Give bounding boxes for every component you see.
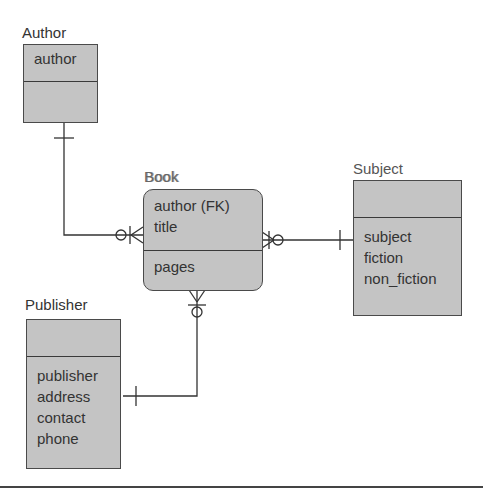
entity-title-publisher: Publisher — [25, 296, 88, 313]
attribute: contact — [37, 407, 120, 428]
book-key-section: author (FK) title — [144, 192, 262, 248]
attribute: fiction — [364, 247, 461, 268]
book-publisher-line — [123, 290, 197, 396]
author-book-line — [64, 122, 143, 235]
entity-book[interactable]: author (FK) title pages — [143, 189, 263, 291]
book-attr-section: pages — [144, 253, 262, 277]
attribute: author — [34, 48, 97, 69]
attribute: non_fiction — [364, 268, 461, 289]
publisher-attr-section: publisher address contact phone — [27, 362, 120, 449]
attribute: author (FK) — [154, 195, 262, 216]
divider — [354, 217, 461, 218]
bottom-rule — [0, 486, 483, 488]
subject-attr-section: subject fiction non_fiction — [354, 223, 461, 289]
entity-subject[interactable]: subject fiction non_fiction — [353, 180, 462, 316]
author-key-section: author — [24, 45, 97, 81]
divider — [144, 250, 262, 251]
attribute: phone — [37, 428, 120, 449]
entity-title-subject: Subject — [353, 160, 403, 177]
entity-title-author: Author — [22, 24, 66, 41]
attribute: publisher — [37, 365, 120, 386]
attribute: address — [37, 386, 120, 407]
entity-publisher[interactable]: publisher address contact phone — [26, 319, 121, 469]
divider — [24, 81, 97, 82]
divider — [27, 356, 120, 357]
entity-author[interactable]: author — [23, 44, 98, 123]
attribute: title — [154, 216, 262, 237]
attribute: subject — [364, 226, 461, 247]
attribute: pages — [154, 256, 262, 277]
entity-title-book: Book — [144, 168, 178, 185]
